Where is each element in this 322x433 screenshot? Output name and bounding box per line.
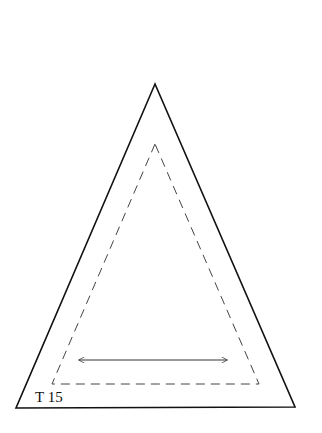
outer-cut-line	[16, 84, 295, 408]
inner-seam-line	[52, 144, 259, 384]
triangle-template: T 15	[0, 0, 322, 433]
template-label: T 15	[35, 389, 63, 405]
